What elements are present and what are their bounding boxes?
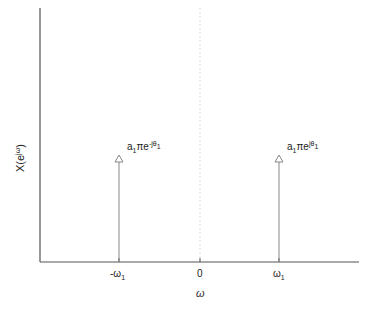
tick-label-zero: 0 xyxy=(197,268,203,279)
tick-label-omega1: ω1 xyxy=(273,268,285,279)
tick-label-neg-omega1: -ω1 xyxy=(110,268,125,279)
impulse-label-pos: a1πejθ1 xyxy=(287,141,318,152)
impulse-label-neg: a1πe-jθ1 xyxy=(127,141,161,152)
x-axis-label: ω xyxy=(196,287,205,299)
y-axis-label: X(ejω) xyxy=(14,144,26,172)
impulse-arrowhead-neg-icon xyxy=(115,155,123,162)
impulse-arrowhead-pos-icon xyxy=(275,155,283,162)
plot-canvas xyxy=(0,0,380,310)
